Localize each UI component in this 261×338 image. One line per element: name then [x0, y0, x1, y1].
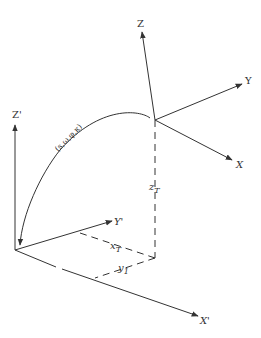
params-label: (s,ω,φ,κ) [53, 122, 84, 153]
y-prime-label: Y' [114, 216, 123, 227]
xT-label: xT [110, 240, 122, 254]
coordinate-diagram: Z Y X Z' Y' X' (s,ω,φ,κ) zT xT y1 [0, 0, 261, 338]
z-label: Z [137, 18, 144, 29]
y-axis [155, 84, 242, 120]
lower-axes [15, 125, 198, 316]
z-prime-label: Z' [12, 109, 22, 120]
z-axis [142, 32, 155, 120]
y-label: Y [244, 75, 252, 86]
x-prime-axis-a [15, 250, 56, 267]
projection-lines [80, 120, 155, 278]
transform-curve [20, 113, 150, 245]
x-prime-label: X' [199, 315, 210, 326]
y-prime-axis [15, 221, 112, 250]
upper-axes [142, 32, 242, 160]
x-label: X [235, 159, 244, 170]
x-prime-axis-b [62, 269, 198, 316]
yT-label: y1 [117, 262, 129, 276]
zT-label: zT [148, 181, 160, 195]
x-axis [155, 120, 232, 160]
